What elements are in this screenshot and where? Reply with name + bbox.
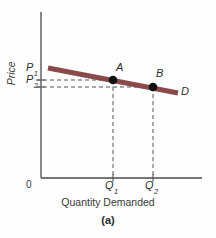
- point-b-marker: [149, 83, 158, 92]
- p1-base: P: [26, 61, 33, 73]
- q1-base: Q: [105, 179, 114, 191]
- point-b-label: B: [156, 68, 163, 79]
- x-tick-label-q1: Q1: [105, 180, 118, 194]
- q1-subscript: 1: [114, 187, 118, 196]
- x-tick-label-q2: Q2: [145, 180, 158, 194]
- y-tick-label-p2: P2: [26, 74, 38, 88]
- y-axis-title: Price: [6, 50, 17, 96]
- origin-label: 0: [26, 180, 32, 190]
- q2-base: Q: [145, 179, 154, 191]
- point-a-label: A: [116, 62, 123, 73]
- demand-curve-figure: Price P1 P2 Q1 Q2 A B D 0 Quantity Deman…: [0, 0, 216, 238]
- demand-curve-label: D: [181, 86, 189, 97]
- point-a-marker: [109, 76, 118, 85]
- p2-subscript: 2: [34, 81, 38, 90]
- x-axis-title: Quantity Demanded: [0, 197, 216, 208]
- q2-subscript: 2: [154, 187, 158, 196]
- panel-caption: (a): [0, 215, 216, 226]
- p2-base: P: [26, 73, 33, 85]
